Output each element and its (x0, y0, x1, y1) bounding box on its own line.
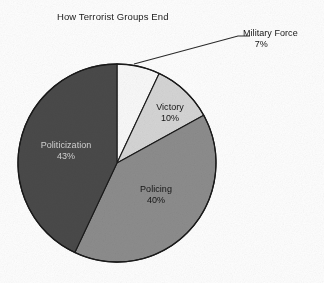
slice-label-military-force-value: 7% (243, 39, 298, 50)
slice-label-victory-value: 10% (143, 113, 197, 124)
slice-label-military-force-name: Military Force (243, 28, 298, 38)
pie-chart-figure: How Terrorist Groups End (0, 0, 324, 283)
slice-label-military-force: Military Force 7% (243, 28, 298, 50)
slice-label-politicization-name: Politicization (41, 140, 92, 150)
slice-label-victory: Victory 10% (143, 102, 197, 124)
slice-label-victory-name: Victory (156, 102, 184, 112)
slice-label-politicization-value: 43% (28, 151, 104, 162)
slice-label-politicization: Politicization 43% (28, 140, 104, 162)
slice-label-policing-value: 40% (129, 195, 183, 206)
slice-label-policing-name: Policing (140, 184, 172, 194)
slice-label-policing: Policing 40% (129, 184, 183, 206)
military-force-leader-line (134, 36, 250, 64)
